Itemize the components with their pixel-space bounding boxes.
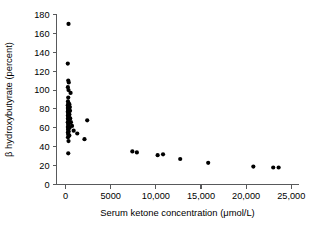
y-tick-label: 20 [39,161,49,171]
data-point [85,118,89,122]
y-axis-tick-labels: 020406080100120140160180 [34,10,49,190]
y-tick-label: 100 [34,85,49,95]
y-axis-title: β hydroxybutyrate (percent) [3,42,14,157]
x-axis-tick-marks [66,185,292,189]
data-point [66,135,70,139]
y-tick-label: 80 [39,104,49,114]
data-point [75,131,79,135]
data-point [72,129,76,133]
x-axis-tick-labels: 0500010,00015,00020,00025,000 [63,191,305,201]
x-tick-label: 15,000 [187,191,215,201]
data-point [135,150,139,154]
x-tick-label: 25,000 [277,191,305,201]
data-point [66,139,70,143]
y-tick-label: 120 [34,67,49,77]
data-point [156,153,160,157]
data-point [206,161,210,165]
data-point [66,22,70,26]
y-tick-label: 160 [34,29,49,39]
data-point [66,62,70,66]
data-point [66,151,70,155]
y-tick-label: 0 [44,180,49,190]
data-point [251,164,255,168]
chart-canvas: 020406080100120140160180 0500010,00015,0… [0,0,316,230]
x-tick-label: 20,000 [232,191,260,201]
data-point [277,165,281,169]
data-points-group [66,22,281,170]
data-point [178,157,182,161]
x-tick-label: 0 [63,191,68,201]
x-tick-label: 5000 [100,191,120,201]
data-point [130,149,134,153]
data-point [82,137,86,141]
x-axis-title: Serum ketone concentration (μmol/L) [100,207,254,218]
y-axis-tick-marks [53,15,57,185]
data-point [66,96,70,100]
scatter-chart-figure: 020406080100120140160180 0500010,00015,0… [0,0,316,230]
data-point [67,80,71,84]
data-point [271,165,275,169]
data-point [161,152,165,156]
y-tick-label: 60 [39,123,49,133]
y-tick-label: 40 [39,142,49,152]
y-tick-label: 180 [34,10,49,20]
x-tick-label: 10,000 [142,191,170,201]
y-tick-label: 140 [34,48,49,58]
data-point [68,91,72,95]
